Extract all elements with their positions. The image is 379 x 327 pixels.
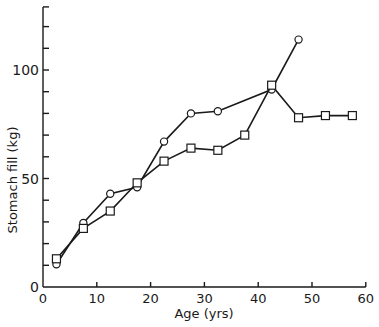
data-series: [52, 36, 356, 268]
square-marker: [52, 255, 60, 263]
axis-ticks: 0501000102030405060: [12, 27, 374, 306]
y-tick-label: 50: [21, 171, 39, 187]
square-marker: [348, 112, 356, 120]
line-chart: 0501000102030405060 Age (yrs) Stomach fi…: [0, 0, 379, 327]
x-tick-label: 10: [89, 291, 106, 306]
series-circles: [53, 36, 302, 268]
square-marker: [295, 114, 303, 122]
series-squares: [52, 81, 356, 263]
x-tick-label: 0: [39, 291, 47, 306]
circle-marker: [107, 190, 114, 197]
square-marker: [214, 146, 222, 154]
series-line: [57, 85, 353, 259]
x-tick-label: 20: [142, 291, 159, 306]
series-line: [57, 40, 299, 265]
square-marker: [268, 81, 276, 89]
y-axis-label: Stomach fill (kg): [5, 127, 20, 234]
circle-marker: [295, 36, 302, 43]
circle-marker: [187, 110, 194, 117]
square-marker: [106, 207, 114, 215]
axes: [43, 7, 366, 287]
x-tick-label: 60: [358, 291, 375, 306]
square-marker: [187, 144, 195, 152]
circle-marker: [214, 108, 221, 115]
square-marker: [160, 157, 168, 165]
circle-marker: [160, 138, 167, 145]
x-tick-label: 40: [250, 291, 267, 306]
square-marker: [133, 179, 141, 187]
square-marker: [79, 224, 87, 232]
x-tick-label: 50: [304, 291, 321, 306]
square-marker: [241, 131, 249, 139]
x-tick-label: 30: [196, 291, 213, 306]
square-marker: [321, 112, 329, 120]
y-tick-label: 100: [12, 62, 39, 78]
x-axis-label: Age (yrs): [174, 306, 233, 321]
y-tick-label: 0: [30, 279, 39, 295]
